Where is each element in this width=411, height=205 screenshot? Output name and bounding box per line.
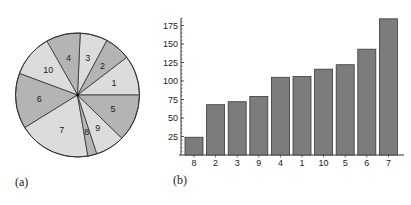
y-tick-label: 50 [168,113,178,123]
y-tick-label: 125 [163,58,178,68]
bar-5 [336,65,354,155]
y-tick-label: 100 [163,76,178,86]
bar-3 [228,102,246,155]
pie-slice-label: 10 [43,65,53,75]
x-tick-label: 2 [213,158,218,168]
x-tick-label: 8 [191,158,196,168]
pie-slice-label: 7 [59,125,64,135]
pie-slice-label: 1 [111,78,116,88]
pie-slice-label: 6 [37,94,42,104]
pie-chart: 12341067895 [15,33,139,157]
figure: 12341067895 (a) 255075100125150175823941… [0,0,411,205]
x-tick-label: 6 [364,158,369,168]
x-tick-label: 4 [278,158,283,168]
bar-7 [379,19,397,155]
pie-slice-label: 2 [100,61,105,71]
bar-4 [271,77,289,155]
bar-10 [315,69,333,155]
x-tick-label: 10 [319,158,329,168]
bar-6 [358,49,376,155]
bar-8 [185,137,203,155]
pie-center [76,93,79,96]
bar-chart: 25507510012515017582394110567 [163,18,404,168]
bar-9 [250,97,268,155]
pie-slice-label: 5 [111,104,116,114]
x-tick-label: 5 [343,158,348,168]
x-tick-label: 3 [235,158,240,168]
pie-panel-label: (a) [15,175,28,189]
pie-slice-label: 4 [66,53,71,63]
bar-panel-label: (b) [173,173,187,187]
bar-1 [293,77,311,155]
pie-slice-label: 9 [95,123,100,133]
pie-slice-label: 3 [85,53,90,63]
x-tick-label: 7 [386,158,391,168]
bar-2 [207,105,225,155]
x-tick-label: 9 [256,158,261,168]
y-tick-label: 75 [168,95,178,105]
x-tick-label: 1 [299,158,304,168]
y-tick-label: 25 [168,132,178,142]
y-tick-label: 175 [163,21,178,31]
y-tick-label: 150 [163,39,178,49]
